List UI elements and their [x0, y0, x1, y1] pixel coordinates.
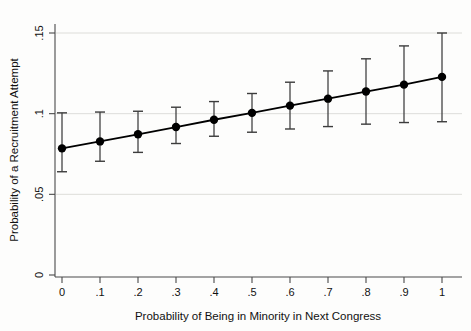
x-tick-label: .7 — [323, 286, 332, 298]
x-tick-label: .8 — [361, 286, 370, 298]
x-tick-label: .5 — [247, 286, 256, 298]
data-point-marker — [172, 123, 180, 131]
data-point-marker — [210, 116, 218, 124]
chart-figure: 0.05.1.15 0.1.2.3.4.5.6.7.8.91 Probabili… — [0, 0, 471, 331]
y-axis-title: Probability of a Recruitment Attempt — [8, 57, 20, 241]
y-tick-label: .05 — [33, 187, 45, 202]
data-point-marker — [400, 80, 408, 88]
x-tick-label: .6 — [285, 286, 294, 298]
x-tick-label: .4 — [209, 286, 218, 298]
data-point-marker — [362, 87, 370, 95]
y-tick-label: .1 — [33, 109, 45, 118]
x-axis-title: Probability of Being in Minority in Next… — [135, 310, 381, 322]
data-point-marker — [324, 94, 332, 102]
data-point-marker — [134, 130, 142, 138]
x-tick-label: 0 — [59, 286, 65, 298]
plot-background — [0, 0, 471, 331]
x-tick-label: .3 — [171, 286, 180, 298]
data-point-marker — [438, 73, 446, 81]
scatter-line-plot-with-error-bars: 0.05.1.15 0.1.2.3.4.5.6.7.8.91 Probabili… — [0, 0, 471, 331]
data-point-marker — [286, 101, 294, 109]
y-tick-label: 0 — [33, 272, 45, 278]
x-tick-label: .2 — [133, 286, 142, 298]
data-point-marker — [58, 144, 66, 152]
x-tick-label: .1 — [95, 286, 104, 298]
data-point-marker — [96, 137, 104, 145]
x-tick-label: .9 — [399, 286, 408, 298]
data-point-marker — [248, 109, 256, 117]
x-tick-label: 1 — [439, 286, 445, 298]
y-tick-label: .15 — [33, 25, 45, 40]
